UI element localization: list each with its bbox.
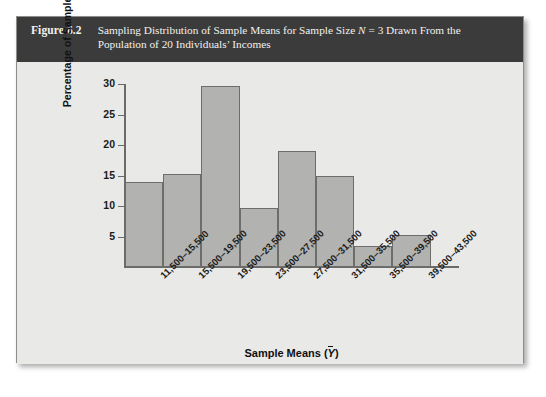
y-axis-tick-label: 10 (89, 199, 115, 211)
y-axis-tick: 20 (118, 145, 124, 146)
figure-header: Figure 6.2 Sampling Distribution of Samp… (17, 17, 523, 62)
y-axis-tick: 30 (118, 84, 124, 85)
y-axis-tick-label: 30 (89, 77, 115, 89)
y-axis-tick: 10 (118, 206, 124, 207)
x-axis-tick-label: 19,500–23,500 (235, 273, 243, 281)
y-axis-tick-label: 25 (89, 108, 115, 120)
y-axis-tick: 25 (118, 115, 124, 116)
x-axis-tick-label: 35,500–39,500 (387, 273, 395, 281)
x-axis-title: Sample Means (Y) (124, 347, 459, 359)
y-axis-title: Percentage of Samples (61, 0, 73, 114)
x-axis-tick-label: 11,500–15,500 (158, 273, 166, 281)
chart-axes: 51015202530 11,500–15,50015,500–19,50019… (17, 62, 523, 364)
figure-number-label: Figure 6.2 (31, 23, 82, 36)
figure-caption: Sampling Distribution of Sample Means fo… (98, 23, 461, 51)
y-bar-symbol: Y (328, 347, 335, 359)
y-axis-tick-label: 20 (89, 138, 115, 150)
x-axis-tick-label: 23,500–27,500 (273, 273, 281, 281)
x-axis-tick-label: 31,500–35,500 (349, 273, 357, 281)
bar (125, 182, 163, 267)
caption-text-b: = 3 Drawn From the (366, 24, 461, 36)
figure-box: Figure 6.2 Sampling Distribution of Samp… (16, 16, 524, 363)
x-axis-tick-label: 15,500–19,500 (196, 273, 204, 281)
caption-text-a: Sampling Distribution of Sample Means fo… (98, 24, 358, 36)
y-axis-tick: 5 (118, 237, 124, 238)
y-axis-tick: 15 (118, 176, 124, 177)
x-axis-title-text: Sample Means ( (244, 347, 327, 359)
x-axis-tick-label: 39,500–43,500 (426, 273, 434, 281)
x-axis-tick-label: 27,500–31,500 (311, 273, 319, 281)
caption-text-c: Population of 20 Individuals’ Incomes (98, 38, 271, 50)
x-axis-title-paren: ) (335, 347, 339, 359)
y-axis-tick-label: 5 (89, 230, 115, 242)
caption-symbol-n: N (358, 24, 366, 36)
chart-plot-area: 51015202530 11,500–15,50015,500–19,50019… (17, 62, 523, 364)
y-axis-tick-label: 15 (89, 169, 115, 181)
